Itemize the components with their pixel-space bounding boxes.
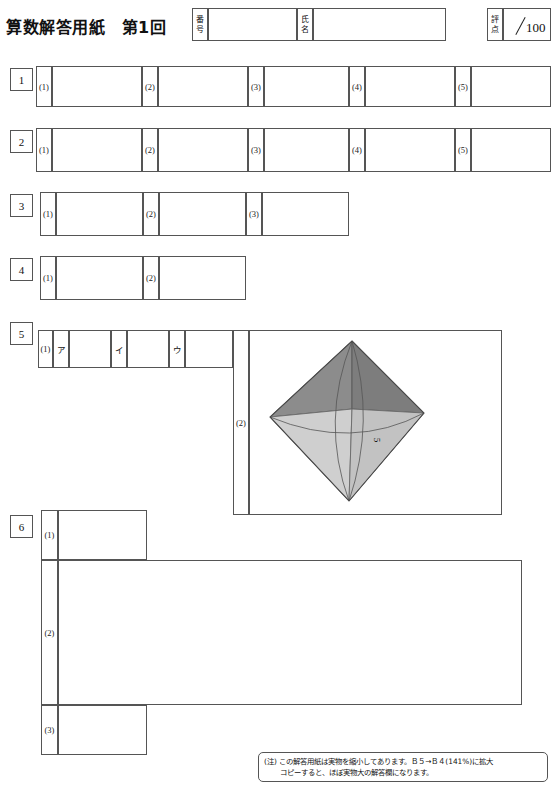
- section2-item3-tag: (3): [248, 128, 264, 172]
- section2-item4-tag: (4): [349, 128, 365, 172]
- section5-sublabel-a: ア: [53, 330, 69, 368]
- section5-sublabel-i-field[interactable]: [127, 330, 169, 368]
- section4-item1-field[interactable]: [56, 256, 143, 300]
- print-scale-note-text-1: この解答用紙は実物を縮小してあります。Ｂ５→Ｂ４(141%)に拡大: [279, 757, 493, 766]
- section1-item4-field[interactable]: [365, 66, 455, 107]
- section1-item5-tag: (5): [455, 66, 471, 107]
- score-label: 評 点: [487, 8, 503, 41]
- section1-item3-field[interactable]: [264, 66, 349, 107]
- section2-item2-field[interactable]: [158, 128, 248, 172]
- section2-item1-field[interactable]: [52, 128, 142, 172]
- section-number-5: 5: [10, 322, 33, 345]
- section5-item2-tag: (2): [233, 330, 249, 515]
- student-id-label: 番 号: [192, 8, 208, 41]
- print-scale-note: (注) この解答用紙は実物を縮小してあります。Ｂ５→Ｂ４(141%)に拡大 コピ…: [258, 752, 548, 782]
- section1-item1-tag: (1): [36, 66, 52, 107]
- section5-sublabel-u: ウ: [169, 330, 185, 368]
- section6-item3-tag: (3): [41, 705, 58, 755]
- section6-item2-field[interactable]: [58, 560, 522, 705]
- section6-item1-field[interactable]: [58, 510, 147, 560]
- section5-item1-tag: (1): [38, 330, 53, 368]
- section1-item3-tag: (3): [248, 66, 264, 107]
- answer-sheet: 算数解答用紙 第1回 番 号 氏 名 評 点 100 1 (1) (2) (3)…: [0, 0, 556, 785]
- page-title: 算数解答用紙 第1回: [6, 14, 166, 38]
- octahedron-svg: [264, 335, 439, 505]
- section2-item2-tag: (2): [142, 128, 158, 172]
- section6-item2-tag: (2): [41, 560, 58, 705]
- section5-sublabel-i: イ: [111, 330, 127, 368]
- section-number-2: 2: [10, 130, 33, 153]
- section2-item4-field[interactable]: [365, 128, 455, 172]
- section2-item5-tag: (5): [455, 128, 471, 172]
- octahedron-figure: 5: [264, 335, 439, 505]
- student-name-label: 氏 名: [297, 8, 313, 41]
- section5-sublabel-a-field[interactable]: [69, 330, 111, 368]
- section-number-4: 4: [10, 258, 33, 281]
- octahedron-edge-label: 5: [372, 438, 382, 443]
- section3-item2-tag: (2): [143, 192, 159, 236]
- section1-item2-field[interactable]: [158, 66, 248, 107]
- section4-item1-tag: (1): [40, 256, 56, 300]
- section-number-1: 1: [10, 68, 33, 91]
- section4-item2-tag: (2): [143, 256, 159, 300]
- score-slash: [515, 17, 525, 35]
- score-label-char-1: 評: [491, 15, 499, 24]
- student-id-label-char-1: 番: [196, 15, 204, 24]
- section2-item5-field[interactable]: [471, 128, 551, 172]
- section3-item3-field[interactable]: [262, 192, 349, 236]
- section1-item4-tag: (4): [349, 66, 365, 107]
- section2-item3-field[interactable]: [264, 128, 349, 172]
- student-name-field[interactable]: [313, 8, 446, 41]
- section5-item2-field[interactable]: 5: [249, 330, 502, 515]
- print-scale-note-line-2: コピーすると、ほぼ実物大の解答欄になります。: [264, 768, 542, 779]
- print-scale-note-line-1: (注) この解答用紙は実物を縮小してあります。Ｂ５→Ｂ４(141%)に拡大: [264, 757, 542, 768]
- section3-item2-field[interactable]: [159, 192, 246, 236]
- score-label-char-2: 点: [491, 25, 499, 34]
- section3-item3-tag: (3): [246, 192, 262, 236]
- section2-item1-tag: (1): [36, 128, 52, 172]
- student-id-label-char-2: 号: [196, 25, 204, 34]
- score-field[interactable]: 100: [503, 8, 551, 41]
- section1-item5-field[interactable]: [471, 66, 551, 107]
- section6-item3-field[interactable]: [58, 705, 147, 755]
- section-number-6: 6: [10, 515, 33, 538]
- section-number-3: 3: [10, 194, 33, 217]
- student-name-label-char-1: 氏: [301, 15, 309, 24]
- student-name-label-char-2: 名: [301, 25, 309, 34]
- section3-item1-field[interactable]: [56, 192, 143, 236]
- print-scale-note-marker: (注): [264, 757, 277, 766]
- student-id-field[interactable]: [208, 8, 297, 41]
- section1-item1-field[interactable]: [52, 66, 142, 107]
- score-max: 100: [526, 20, 546, 36]
- section1-item2-tag: (2): [142, 66, 158, 107]
- section4-item2-field[interactable]: [159, 256, 246, 300]
- footer-scrap-text: [6, 775, 196, 783]
- section6-item1-tag: (1): [41, 510, 58, 560]
- section5-sublabel-u-field[interactable]: [185, 330, 233, 368]
- section3-item1-tag: (1): [40, 192, 56, 236]
